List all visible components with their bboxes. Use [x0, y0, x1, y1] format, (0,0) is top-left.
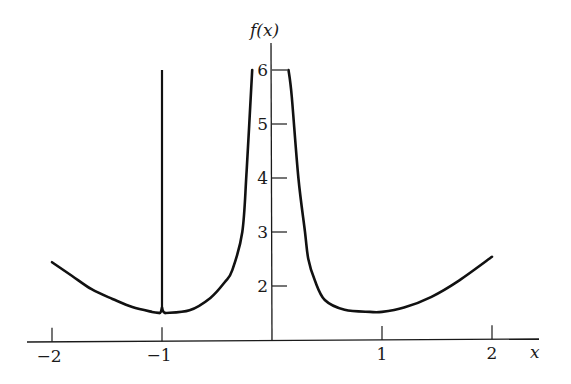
y-tick-label: 4 — [257, 168, 268, 188]
y-tick-label: 3 — [257, 222, 268, 242]
y-axis — [271, 43, 272, 341]
x-tick-label: −2 — [36, 346, 61, 366]
x-tick-label: −1 — [146, 345, 171, 365]
curve-left-outer-branch — [52, 262, 160, 313]
y-tick-label: 5 — [257, 114, 268, 134]
cusp-at-minus-one — [160, 308, 166, 313]
curve-left-inner-branch — [165, 70, 252, 313]
curve-right-branch — [289, 70, 493, 312]
x-tick-label: 2 — [487, 343, 498, 363]
x-tick-label: 1 — [377, 344, 388, 364]
y-tick-label: 2 — [257, 276, 268, 296]
y-tick-label: 6 — [257, 60, 268, 80]
y-axis-title: f(x) — [248, 20, 279, 40]
function-plot: −2−112 23456 f(x) x — [0, 0, 571, 384]
x-ticks: −2−112 — [36, 325, 497, 366]
x-axis — [27, 339, 539, 342]
x-axis-title: x — [530, 342, 540, 362]
